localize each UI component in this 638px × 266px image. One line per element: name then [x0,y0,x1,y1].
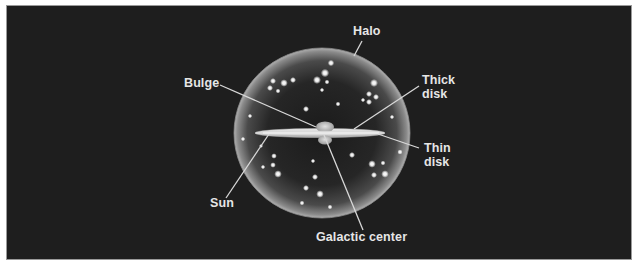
label-thin-disk-line1: Thin [424,141,451,155]
diagram-panel: Halo Bulge Thick disk Thin disk Sun Gala… [6,5,632,260]
halo-leader [354,41,362,56]
galaxy-illustration [1,1,638,266]
label-bulge: Bulge [184,76,219,90]
label-thick-disk-line2: disk [422,87,455,101]
label-thin-disk: Thin disk [424,141,451,169]
label-thin-disk-line2: disk [424,155,451,169]
label-galactic-center: Galactic center [316,230,407,244]
label-thick-disk-line1: Thick [422,73,455,87]
label-halo: Halo [353,24,381,38]
label-sun: Sun [210,196,234,210]
label-thick-disk: Thick disk [422,73,455,101]
